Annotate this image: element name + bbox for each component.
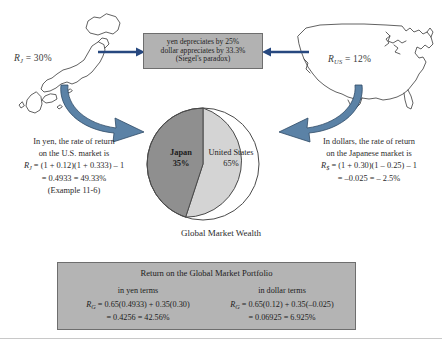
portfolio-yen-body: = 0.65(0.4933) + 0.35(0.30)	[96, 300, 190, 309]
right-line-1: In dollars, the rate of return	[296, 136, 442, 148]
portfolio-yen-result: = 0.4256 = 42.56%	[64, 312, 212, 324]
us-return-label: RUS = 12%	[328, 54, 371, 65]
pie-japan-name: Japan	[170, 148, 192, 157]
portfolio-title: Return on the Global Market Portfolio	[58, 268, 355, 278]
right-explanation-block: In dollars, the rate of return on the Ja…	[296, 136, 442, 185]
global-market-wealth-pie: Japan 35% United States 65%	[145, 106, 261, 222]
right-formula-body: = (1 + 0.30)(1 – 0.25) – 1	[329, 161, 417, 170]
arrow-us-to-box	[261, 46, 309, 58]
right-formula: R$ = (1 + 0.30)(1 – 0.25) – 1	[296, 160, 442, 173]
left-example-note: (Example 11-6)	[4, 185, 144, 197]
left-explanation-block: In yen, the rate of return on the U.S. m…	[4, 136, 144, 196]
left-formula-result: = 0.4933 = 49.33%	[4, 173, 144, 185]
portfolio-dollar-header: in dollar terms	[208, 285, 356, 297]
japan-return-value: 30%	[34, 53, 52, 63]
left-formula-body: = (1 + 0.12)(1 + 0.333) – 1	[32, 161, 124, 170]
right-formula-result: = –0.025 = – 2.5%	[296, 173, 442, 185]
japan-return-equals: =	[23, 53, 34, 63]
us-return-equals: =	[342, 54, 353, 64]
portfolio-yen-terms: in yen terms RG = 0.65(0.4933) + 0.35(0.…	[64, 285, 212, 324]
pie-us-pct: 65%	[223, 159, 238, 168]
portfolio-dollar-result: = 0.06925 = 6.925%	[208, 312, 356, 324]
portfolio-yen-header: in yen terms	[64, 285, 212, 297]
pie-japan-pct: 35%	[173, 159, 190, 168]
portfolio-yen-formula: RG = 0.65(0.4933) + 0.35(0.30)	[64, 299, 212, 312]
right-line-2: on the Japanese market is	[296, 148, 442, 160]
portfolio-dollar-formula: RG = 0.65(0.12) + 0.35(–0.025)	[208, 299, 356, 312]
global-market-portfolio-box: Return on the Global Market Portfolio in…	[57, 262, 356, 330]
portfolio-dollar-body: = 0.65(0.12) + 0.35(–0.025)	[240, 300, 334, 309]
bottom-divider	[0, 338, 442, 339]
left-line-2: on the U.S. market is	[4, 148, 144, 160]
pie-us-name: United States	[209, 148, 254, 157]
arrow-japan-to-box	[98, 46, 146, 58]
us-return-value: 12%	[353, 54, 371, 64]
pie-label-united-states: United States 65%	[201, 148, 261, 169]
japan-return-label: RJ = 30%	[14, 53, 52, 64]
portfolio-dollar-terms: in dollar terms RG = 0.65(0.12) + 0.35(–…	[208, 285, 356, 324]
left-line-1: In yen, the rate of return	[4, 136, 144, 148]
left-formula: RJ = (1 + 0.12)(1 + 0.333) – 1	[4, 160, 144, 173]
paradox-line-3: (Siegel's paradox)	[176, 55, 231, 64]
siegels-paradox-figure: RJ = 30% RUS = 12% yen depreciates by 25…	[0, 0, 442, 343]
pie-caption: Global Market Wealth	[0, 228, 442, 238]
siegels-paradox-callout: yen depreciates by 25% dollar appreciate…	[143, 33, 263, 69]
